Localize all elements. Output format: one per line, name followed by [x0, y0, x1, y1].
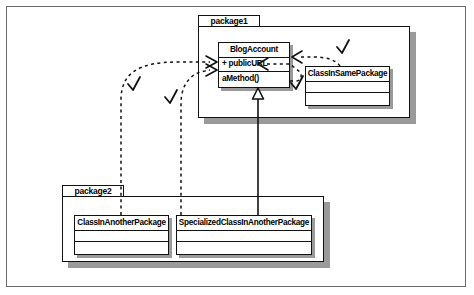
- specializedclassinanotherpackage-name-compartment: SpecializedClassInAnotherPackage: [177, 216, 311, 231]
- classinsamepackage-name-compartment: ClassInSamePackage: [306, 67, 389, 82]
- package1-label: package1: [210, 17, 247, 26]
- class-box-blogaccount[interactable]: BlogAccount + publicURL aMethod(): [218, 42, 290, 88]
- classinanotherpackage-operations-compartment: [75, 242, 168, 253]
- classinanotherpackage-name: ClassInAnotherPackage: [77, 219, 166, 227]
- package2-label: package2: [74, 187, 111, 196]
- blogaccount-attributes-compartment: + publicURL: [219, 58, 289, 72]
- blogaccount-name: BlogAccount: [230, 46, 278, 54]
- classinanotherpackage-attributes-compartment: [75, 231, 168, 242]
- package1-tab[interactable]: package1: [198, 15, 260, 27]
- classinsamepackage-operations-compartment: [306, 93, 389, 104]
- specializedclassinanotherpackage-operations-compartment: [177, 242, 311, 253]
- package2-tab[interactable]: package2: [62, 185, 124, 197]
- class-box-classinsamepackage[interactable]: ClassInSamePackage: [305, 66, 390, 106]
- class-box-specializedclassinanotherpackage[interactable]: SpecializedClassInAnotherPackage: [176, 215, 312, 255]
- diagram-canvas: package1 package2 ClassInSamePackage Blo…: [0, 0, 474, 295]
- classinsamepackage-name: ClassInSamePackage: [308, 70, 388, 78]
- blogaccount-operations-compartment: aMethod(): [219, 72, 289, 86]
- blogaccount-name-compartment: BlogAccount: [219, 43, 289, 58]
- blogaccount-attribute-publicurl: + publicURL: [222, 60, 267, 68]
- class-box-classinanotherpackage[interactable]: ClassInAnotherPackage: [74, 215, 169, 255]
- specializedclassinanotherpackage-name: SpecializedClassInAnotherPackage: [179, 219, 309, 227]
- classinsamepackage-attributes-compartment: [306, 82, 389, 93]
- blogaccount-operation-amethod: aMethod(): [222, 75, 259, 83]
- classinanotherpackage-name-compartment: ClassInAnotherPackage: [75, 216, 168, 231]
- specializedclassinanotherpackage-attributes-compartment: [177, 231, 311, 242]
